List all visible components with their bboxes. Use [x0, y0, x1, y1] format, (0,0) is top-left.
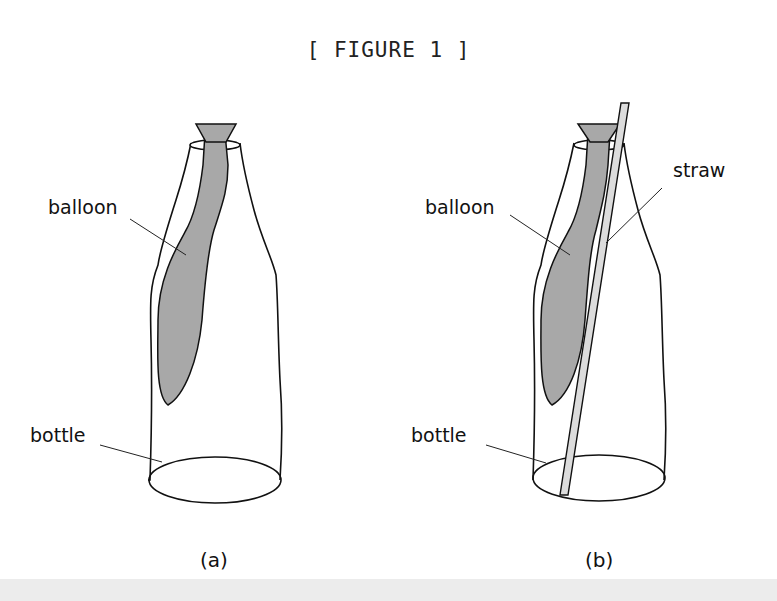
balloon-shape	[158, 133, 228, 405]
balloon-label: balloon	[425, 196, 495, 218]
balloon-leader-line	[130, 219, 186, 255]
panel-a: balloon bottle (a)	[30, 124, 282, 572]
bottle-label: bottle	[30, 424, 86, 446]
bottle-base	[149, 457, 281, 503]
bottle-leader-line	[100, 445, 162, 462]
straw-label: straw	[673, 159, 725, 181]
panel-b-caption: (b)	[585, 548, 613, 572]
panel-b: balloon straw bottle (b)	[411, 103, 725, 572]
bottom-strip	[0, 579, 777, 601]
balloon-mouth	[196, 124, 236, 142]
bottle-label: bottle	[411, 424, 467, 446]
figure-diagram: balloon bottle (a) balloon straw bottle …	[0, 0, 777, 601]
bottle-base	[533, 455, 665, 501]
balloon-mouth	[578, 124, 620, 142]
balloon-label: balloon	[48, 196, 118, 218]
bottle-leader-line	[486, 445, 546, 463]
panel-a-caption: (a)	[200, 548, 228, 572]
balloon-leader-line	[510, 215, 570, 255]
